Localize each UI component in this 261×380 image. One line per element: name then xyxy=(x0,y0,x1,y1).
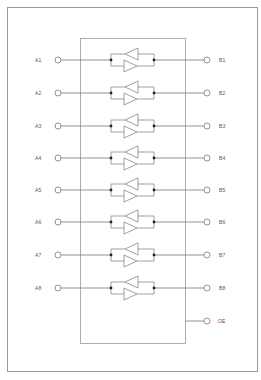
junction-dot-icon xyxy=(110,157,113,160)
buffer-b-to-a-icon xyxy=(125,210,138,222)
channel-row xyxy=(55,114,210,138)
b-pin-label: B8 xyxy=(219,285,226,291)
buffer-a-to-b-icon xyxy=(124,255,137,267)
b-pin-icon xyxy=(204,252,210,258)
buffer-b-to-a-icon xyxy=(125,114,138,126)
junction-dot-icon xyxy=(153,189,156,192)
junction-dot-icon xyxy=(110,287,113,290)
b-pin-label: B7 xyxy=(219,252,226,258)
a-pin-label: A6 xyxy=(35,219,42,225)
a-pin-label: A7 xyxy=(35,252,42,258)
junction-dot-icon xyxy=(110,92,113,95)
b-pin-icon xyxy=(204,219,210,225)
junction-dot-icon xyxy=(153,92,156,95)
a-pin-icon xyxy=(55,57,61,63)
buffer-a-to-b-icon xyxy=(124,288,137,300)
buffer-b-to-a-icon xyxy=(125,243,138,255)
channel-rows xyxy=(55,48,210,300)
channel-row xyxy=(55,81,210,105)
a-pin-icon xyxy=(55,252,61,258)
junction-dot-icon xyxy=(153,157,156,160)
a-pin-label: A2 xyxy=(35,90,42,96)
a-pin-label: A5 xyxy=(35,187,42,193)
channel-row xyxy=(55,48,210,72)
b-pin-icon xyxy=(204,90,210,96)
junction-dot-icon xyxy=(153,221,156,224)
channel-row xyxy=(55,178,210,202)
b-pin-label: B6 xyxy=(219,219,226,225)
b-pin-icon xyxy=(204,285,210,291)
buffer-b-to-a-icon xyxy=(125,178,138,190)
b-pin-icon xyxy=(204,187,210,193)
junction-dot-icon xyxy=(153,59,156,62)
a-pin-label: A8 xyxy=(35,285,42,291)
buffer-a-to-b-icon xyxy=(124,60,137,72)
junction-dot-icon xyxy=(110,189,113,192)
channel-row xyxy=(55,243,210,267)
b-pin-icon xyxy=(204,57,210,63)
buffer-a-to-b-icon xyxy=(124,158,137,170)
b-pin-label: B1 xyxy=(219,57,226,63)
channel-row xyxy=(55,276,210,300)
junction-dot-icon xyxy=(153,287,156,290)
b-pin-label: B2 xyxy=(219,90,226,96)
a-pin-label: A4 xyxy=(35,155,42,161)
buffer-a-to-b-icon xyxy=(124,126,137,138)
junction-dot-icon xyxy=(110,125,113,128)
buffer-b-to-a-icon xyxy=(125,48,138,60)
b-pin-label: B5 xyxy=(219,187,226,193)
junction-dot-icon xyxy=(153,254,156,257)
a-pin-label: A3 xyxy=(35,123,42,129)
junction-dot-icon xyxy=(153,125,156,128)
junction-dot-icon xyxy=(110,59,113,62)
buffer-b-to-a-icon xyxy=(125,81,138,93)
channel-row xyxy=(55,210,210,234)
buffer-a-to-b-icon xyxy=(124,93,137,105)
buffer-a-to-b-icon xyxy=(124,222,137,234)
a-pin-icon xyxy=(55,187,61,193)
a-pin-icon xyxy=(55,219,61,225)
oe-control xyxy=(186,318,211,324)
channel-row xyxy=(55,146,210,170)
b-pin-label: B4 xyxy=(219,155,226,161)
a-pin-icon xyxy=(55,123,61,129)
oe-pin-label: OE xyxy=(218,318,226,324)
buffer-b-to-a-icon xyxy=(125,146,138,158)
b-pin-icon xyxy=(204,155,210,161)
buffer-b-to-a-icon xyxy=(125,276,138,288)
buffer-a-to-b-icon xyxy=(124,190,137,202)
a-pin-icon xyxy=(55,90,61,96)
b-pin-label: B3 xyxy=(219,123,226,129)
a-pin-icon xyxy=(55,285,61,291)
junction-dot-icon xyxy=(110,254,113,257)
a-pin-icon xyxy=(55,155,61,161)
a-pin-label: A1 xyxy=(35,57,42,63)
b-pin-icon xyxy=(204,123,210,129)
oe-pin-icon xyxy=(204,318,210,324)
junction-dot-icon xyxy=(110,221,113,224)
